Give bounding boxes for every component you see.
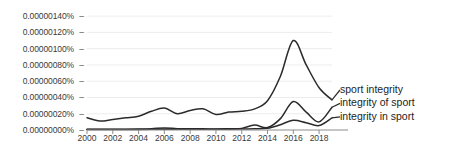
x-tick-label: 2010 <box>206 133 225 143</box>
x-tick-label: 2000 <box>78 133 97 143</box>
plot-svg <box>87 8 332 130</box>
y-tick-label: 0.00000140% <box>23 11 74 21</box>
x-tick-label: 2002 <box>103 133 122 143</box>
series-lines <box>87 40 340 129</box>
y-tick-label: 0.00000080% <box>23 60 74 70</box>
legend-item-0[interactable]: sport integrity <box>340 83 451 96</box>
ngram-chart: 0.00000140%–0.00000120%–0.00000100%–0.00… <box>0 0 451 156</box>
y-tick-label: 0.00000100% <box>23 44 74 54</box>
y-tick-mark: – <box>79 92 84 102</box>
y-tick-mark: – <box>79 109 84 119</box>
legend-item-1[interactable]: integrity of sport <box>340 96 451 109</box>
legend-leader-1 <box>332 103 340 107</box>
x-tick-label: 2004 <box>129 133 148 143</box>
y-tick-label: 0.00000020% <box>23 109 74 119</box>
x-tick-label: 2018 <box>310 133 329 143</box>
y-tick-mark: – <box>79 76 84 86</box>
x-tick-label: 2016 <box>284 133 303 143</box>
y-tick-label: 0.00000060% <box>23 76 74 86</box>
y-tick-mark: – <box>79 27 84 37</box>
chart-legend: sport integrity integrity of sport integ… <box>340 83 451 123</box>
y-tick-mark: – <box>79 11 84 21</box>
y-tick-label: 0.00000120% <box>23 27 74 37</box>
x-tick-label: 2006 <box>155 133 174 143</box>
plot-area <box>87 8 332 130</box>
series-line-1[interactable] <box>87 101 332 129</box>
x-tick-label: 2008 <box>181 133 200 143</box>
y-tick-label: 0.00000040% <box>23 92 74 102</box>
legend-leader-0 <box>332 90 340 100</box>
y-tick-mark: – <box>79 44 84 54</box>
y-tick-mark: – <box>79 60 84 70</box>
x-tick-label: 2012 <box>232 133 251 143</box>
legend-leader-2 <box>332 117 340 118</box>
legend-item-2[interactable]: integrity in sport <box>340 110 451 123</box>
series-line-2[interactable] <box>87 118 332 130</box>
x-tick-label: 2014 <box>258 133 277 143</box>
x-axis-labels: 2000200220042006200820102012201420162018 <box>0 133 451 153</box>
gridlines <box>87 16 332 114</box>
